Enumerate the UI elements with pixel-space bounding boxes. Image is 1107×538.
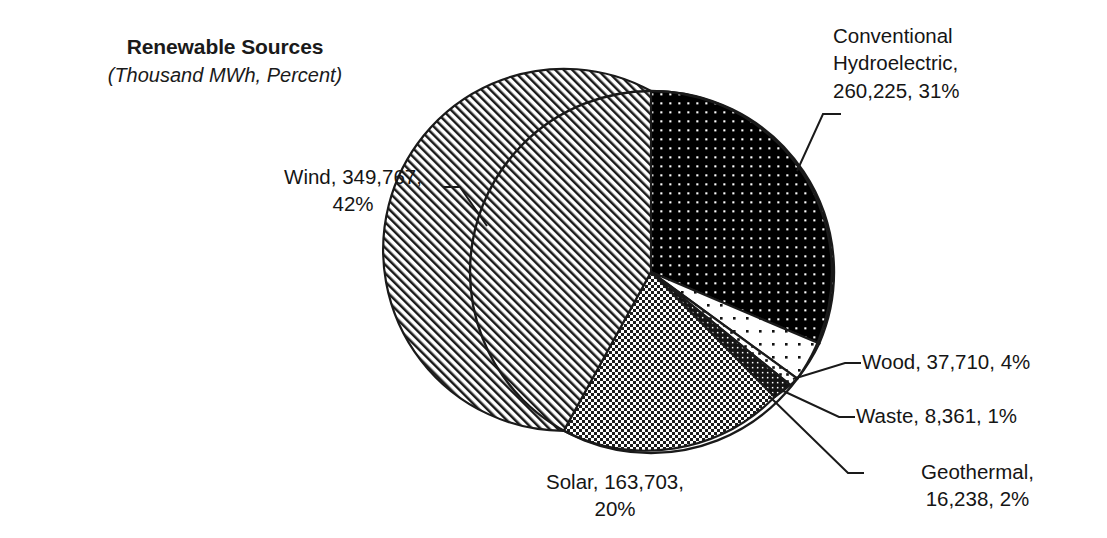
chart-title-block: Renewable Sources (Thousand MWh, Percent… [60, 34, 390, 88]
chart-title: Renewable Sources [60, 34, 390, 61]
slice-label-waste: Waste, 8,361, 1% [856, 402, 1086, 429]
slice-label-wind: Wind, 349,767, 42% [248, 163, 458, 218]
slice-label-conventional-hydroelectric: Conventional Hydroelectric, 260,225, 31% [833, 22, 1073, 104]
slice-label-solar: Solar, 163,703, 20% [500, 468, 730, 523]
slice-label-wood: Wood, 37,710, 4% [862, 348, 1092, 375]
pie-chart-figure: Renewable Sources (Thousand MWh, Percent… [0, 0, 1107, 538]
slice-label-geothermal: Geothermal, 16,238, 2% [865, 458, 1090, 513]
leader-line-waste [779, 389, 855, 417]
leader-line-conventional-hydroelectric [797, 114, 841, 171]
chart-subtitle: (Thousand MWh, Percent) [60, 63, 390, 89]
